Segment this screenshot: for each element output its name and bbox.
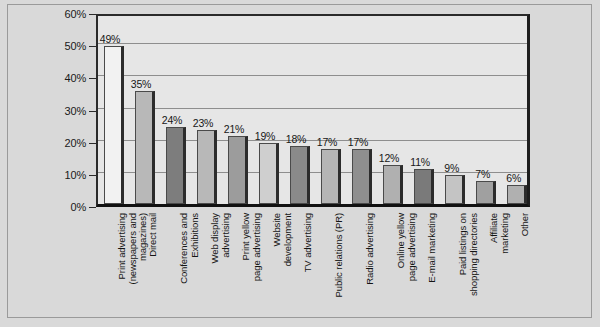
- x-axis-label: Radio advertising: [365, 213, 376, 323]
- bar-slot: 35%: [129, 16, 160, 204]
- bar-value-label: 12%: [379, 152, 399, 164]
- x-axis-label: TV advertising: [303, 213, 314, 323]
- bar-value-label: 49%: [100, 33, 120, 45]
- y-axis-tick-mark: [89, 14, 96, 15]
- bar-slot: 11%: [408, 16, 439, 204]
- bar-value-label: 21%: [224, 123, 244, 135]
- y-axis-tick-mark: [89, 175, 96, 176]
- bar-slot: 12%: [377, 16, 408, 204]
- x-axis-label: Print advertising (newspapers and magazi…: [117, 213, 149, 323]
- bar-value-label: 35%: [131, 78, 151, 90]
- x-axis-label: Paid listings on shopping directories: [458, 213, 479, 323]
- x-axis-label: Affiliate marketing: [489, 213, 510, 323]
- y-axis-tick-mark: [89, 207, 96, 208]
- y-axis-tick-label: 50%: [26, 40, 86, 52]
- bar-slot: 49%: [98, 16, 129, 204]
- y-axis-tick-label: 40%: [26, 72, 86, 84]
- bar-value-label: 18%: [286, 133, 306, 145]
- y-axis-tick-label: 20%: [26, 137, 86, 149]
- bar-slot: 17%: [346, 16, 377, 204]
- x-axis-label: Website development: [272, 213, 293, 323]
- bar-value-label: 24%: [162, 114, 182, 126]
- bar-value-label: 19%: [255, 130, 275, 142]
- bar-slot: 17%: [315, 16, 346, 204]
- bar[interactable]: 9%: [445, 175, 465, 204]
- plot-area: 49%35%24%23%21%19%18%17%17%12%11%9%7%6%: [96, 14, 530, 207]
- x-axis-label: Other: [520, 213, 531, 323]
- bar-value-label: 23%: [193, 117, 213, 129]
- bar-slot: 23%: [191, 16, 222, 204]
- x-axis-label: Online yellow page advertising: [396, 213, 417, 323]
- y-axis-tick-label: 0%: [26, 201, 86, 213]
- bar-value-label: 17%: [317, 136, 337, 148]
- y-axis-tick-label: 30%: [26, 105, 86, 117]
- x-axis-label: Direct mail: [148, 213, 159, 323]
- bar[interactable]: 35%: [135, 91, 155, 204]
- bar[interactable]: 24%: [166, 127, 186, 204]
- bar[interactable]: 17%: [352, 149, 372, 204]
- x-axis-label: E-mail marketing: [427, 213, 438, 323]
- y-axis-tick-label: 10%: [26, 169, 86, 181]
- bar[interactable]: 7%: [476, 181, 496, 204]
- bar-slot: 24%: [160, 16, 191, 204]
- bar[interactable]: 17%: [321, 149, 341, 204]
- y-axis-tick-mark: [89, 143, 96, 144]
- bar[interactable]: 18%: [290, 146, 310, 204]
- y-axis-tick-mark: [89, 111, 96, 112]
- bar-slot: 21%: [222, 16, 253, 204]
- bar-value-label: 11%: [410, 156, 430, 168]
- x-axis-label: Conferences and Exhibitions: [179, 213, 200, 323]
- bar-value-label: 6%: [506, 172, 521, 184]
- bar-value-label: 9%: [444, 162, 459, 174]
- bar-value-label: 7%: [475, 168, 490, 180]
- bar[interactable]: 12%: [383, 165, 403, 204]
- bar[interactable]: 23%: [197, 130, 217, 204]
- x-axis-label: Public relations (PR): [334, 213, 345, 323]
- bar-slot: 7%: [470, 16, 501, 204]
- bar-slot: 19%: [253, 16, 284, 204]
- x-axis-label: Print yellow page advertising: [241, 213, 262, 323]
- bar-slot: 18%: [284, 16, 315, 204]
- bar[interactable]: 6%: [507, 185, 527, 204]
- y-axis-tick-mark: [89, 46, 96, 47]
- y-axis-tick-mark: [89, 78, 96, 79]
- bar[interactable]: 19%: [259, 143, 279, 204]
- x-axis-label: Web display advertising: [210, 213, 231, 323]
- bar[interactable]: 11%: [414, 169, 434, 204]
- bar-chart-figure: 49%35%24%23%21%19%18%17%17%12%11%9%7%6% …: [0, 0, 600, 327]
- bar[interactable]: 49%: [104, 46, 124, 204]
- bar-value-label: 17%: [348, 136, 368, 148]
- bar[interactable]: 21%: [228, 136, 248, 204]
- bar-slot: 9%: [439, 16, 470, 204]
- y-axis-tick-label: 60%: [26, 8, 86, 20]
- bar-slot: 6%: [501, 16, 532, 204]
